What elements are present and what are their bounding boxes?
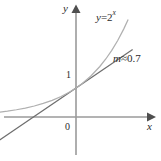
y-axis-label: y bbox=[63, 3, 68, 14]
y-intercept-tick-label: 1 bbox=[66, 70, 71, 80]
curve-equation-base: 2 bbox=[107, 11, 113, 23]
plot-canvas bbox=[0, 0, 161, 161]
exponential-tangent-figure: y x 0 1 y=2x m≈0.7 bbox=[0, 0, 161, 161]
curve-equation-label: y=2x bbox=[96, 10, 116, 23]
x-axis-label: x bbox=[147, 121, 152, 132]
curve-equation-exponent: x bbox=[113, 8, 116, 17]
tangent-slope-label: m≈0.7 bbox=[113, 53, 141, 64]
tangent-slope-symbol: m bbox=[113, 52, 121, 64]
origin-label: 0 bbox=[65, 122, 70, 132]
tangent-slope-value: 0.7 bbox=[127, 52, 141, 64]
y-axis-arrow-icon bbox=[72, 5, 81, 14]
